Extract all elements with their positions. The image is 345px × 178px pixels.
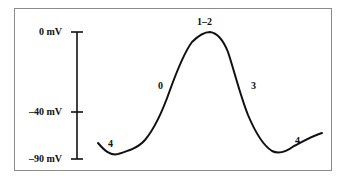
phase-label-1-2: 1–2 bbox=[197, 17, 212, 27]
action-potential-curve bbox=[98, 32, 322, 154]
voltage-axis bbox=[71, 32, 83, 159]
axis-label-minus90mv: –90 mV bbox=[6, 154, 62, 164]
phase-label-4-right: 4 bbox=[295, 136, 300, 146]
phase-label-3: 3 bbox=[251, 81, 256, 91]
axis-label-0mv: 0 mV bbox=[6, 27, 62, 37]
phase-label-0: 0 bbox=[158, 81, 163, 91]
axis-label-minus40mv: –40 mV bbox=[6, 107, 62, 117]
phase-label-4-left: 4 bbox=[108, 139, 113, 149]
